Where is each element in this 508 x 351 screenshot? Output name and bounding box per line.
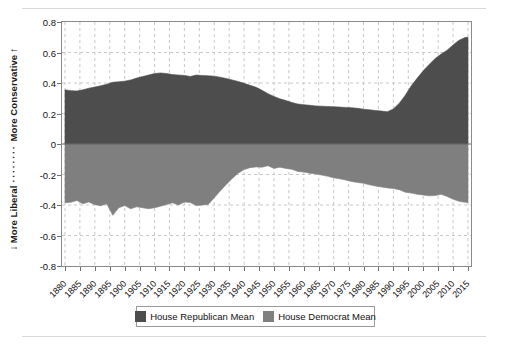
x-tick-mark (229, 267, 230, 271)
x-tick-mark (155, 267, 156, 271)
y-tick-mark (57, 205, 61, 206)
legend-label-democrat: House Democrat Mean (278, 311, 376, 322)
x-tick-mark (184, 267, 185, 271)
x-tick-mark (110, 267, 111, 271)
y-tick-mark (57, 22, 61, 23)
x-tick-mark (95, 267, 96, 271)
y-tick-mark (57, 144, 61, 145)
x-tick-mark (334, 267, 335, 271)
y-tick-mark (57, 53, 61, 54)
chart-page: ↓ More Liberal ········ More Conservativ… (0, 0, 508, 351)
x-tick-mark (259, 267, 260, 271)
x-tick-mark (125, 267, 126, 271)
x-tick-mark (214, 267, 215, 271)
y-tick-mark (57, 236, 61, 237)
y-tick-mark (57, 266, 61, 267)
x-tick-mark (393, 267, 394, 271)
x-tick-mark (140, 267, 141, 271)
x-tick-mark (80, 267, 81, 271)
x-tick-mark (199, 267, 200, 271)
x-axis-ticks: 1880188518901895190019051910191519201925… (0, 0, 508, 351)
chart-legend: House Republican Mean House Democrat Mea… (136, 306, 375, 327)
y-tick-mark (57, 83, 61, 84)
x-tick-mark (349, 267, 350, 271)
legend-item-republican: House Republican Mean (135, 311, 254, 322)
x-tick-mark (453, 267, 454, 271)
x-tick-mark (378, 267, 379, 271)
x-tick-mark (438, 267, 439, 271)
y-tick-mark (57, 114, 61, 115)
x-tick-mark (364, 267, 365, 271)
y-tick-mark (57, 175, 61, 176)
x-tick-mark (408, 267, 409, 271)
x-tick-mark (169, 267, 170, 271)
x-tick-mark (423, 267, 424, 271)
x-tick-mark (468, 267, 469, 271)
x-tick-mark (274, 267, 275, 271)
legend-swatch-republican (135, 311, 146, 322)
x-tick-mark (304, 267, 305, 271)
legend-item-democrat: House Democrat Mean (263, 311, 376, 322)
legend-swatch-democrat (263, 311, 274, 322)
legend-label-republican: House Republican Mean (150, 311, 254, 322)
x-tick-mark (65, 267, 66, 271)
x-tick-mark (289, 267, 290, 271)
x-tick-mark (244, 267, 245, 271)
x-tick-mark (319, 267, 320, 271)
